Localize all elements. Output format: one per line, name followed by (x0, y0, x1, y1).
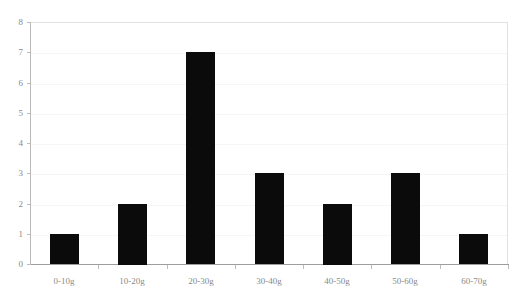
y-tick-label: 0 (0, 260, 23, 269)
y-tick-mark (27, 204, 31, 205)
bar (323, 204, 352, 265)
x-tick-label: 20-30g (167, 277, 235, 286)
y-tick-mark (27, 143, 31, 144)
bar (255, 173, 284, 264)
x-tick-mark (235, 265, 236, 269)
y-tick-mark (27, 52, 31, 53)
bar (186, 52, 215, 264)
x-tick-mark (303, 265, 304, 269)
x-tick-mark (508, 265, 509, 269)
bar (118, 204, 147, 265)
x-tick-label: 10-20g (98, 277, 166, 286)
x-tick-mark (167, 265, 168, 269)
x-axis-line (30, 264, 509, 265)
bar (459, 234, 488, 264)
y-tick-mark (27, 264, 31, 265)
x-tick-mark (98, 265, 99, 269)
bar-chart: 012345678 0-10g10-20g20-30g30-40g40-50g5… (0, 0, 525, 305)
y-tick-label: 2 (0, 200, 23, 209)
x-tick-mark (371, 265, 372, 269)
y-tick-label: 1 (0, 230, 23, 239)
x-tick-mark (440, 265, 441, 269)
y-tick-mark (27, 83, 31, 84)
y-tick-mark (27, 234, 31, 235)
y-tick-label: 5 (0, 109, 23, 118)
x-tick-label: 60-70g (440, 277, 508, 286)
y-tick-label: 8 (0, 18, 23, 27)
y-tick-label: 7 (0, 48, 23, 57)
y-tick-label: 4 (0, 139, 23, 148)
y-tick-mark (27, 173, 31, 174)
y-tick-mark (27, 22, 31, 23)
gridline (30, 144, 507, 145)
y-tick-label: 3 (0, 169, 23, 178)
y-tick-label: 6 (0, 79, 23, 88)
x-tick-label: 50-60g (371, 277, 439, 286)
x-tick-label: 30-40g (235, 277, 303, 286)
gridline (30, 114, 507, 115)
x-tick-label: 40-50g (303, 277, 371, 286)
gridline (30, 53, 507, 54)
bar (391, 173, 420, 264)
y-tick-mark (27, 113, 31, 114)
x-tick-label: 0-10g (30, 277, 98, 286)
bar (50, 234, 79, 264)
gridline (30, 84, 507, 85)
